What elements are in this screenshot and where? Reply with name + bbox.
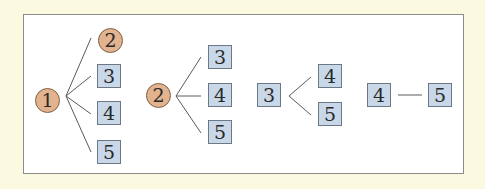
node-label: 4 bbox=[103, 104, 115, 123]
group3-root-node: 3 bbox=[257, 83, 281, 107]
node-label: 3 bbox=[214, 48, 226, 67]
group2-child-node: 3 bbox=[208, 45, 232, 69]
node-label: 3 bbox=[263, 86, 275, 105]
group2-child-node: 4 bbox=[208, 83, 232, 107]
edge-1-3 bbox=[66, 76, 91, 96]
group1-child-node: 4 bbox=[97, 101, 121, 125]
node-label: 2 bbox=[104, 31, 116, 50]
group2-child-node: 5 bbox=[208, 120, 232, 144]
group1-child-node: 3 bbox=[97, 64, 121, 88]
group2-root-node: 2 bbox=[146, 83, 171, 108]
node-label: 1 bbox=[41, 91, 53, 110]
group4-child-node: 5 bbox=[428, 83, 452, 107]
edge-2-5 bbox=[176, 96, 201, 133]
edge-1-2 bbox=[66, 38, 91, 96]
node-label: 4 bbox=[214, 86, 226, 105]
edge-3-4 bbox=[289, 77, 311, 96]
edge-3-5 bbox=[289, 96, 311, 115]
node-label: 5 bbox=[214, 123, 226, 142]
node-label: 4 bbox=[324, 67, 336, 86]
node-label: 5 bbox=[434, 86, 446, 105]
node-label: 2 bbox=[152, 86, 164, 105]
node-label: 5 bbox=[324, 105, 336, 124]
node-label: 5 bbox=[103, 143, 115, 162]
connector-lines bbox=[0, 0, 485, 189]
group3-child-node: 4 bbox=[318, 64, 342, 88]
edge-2-3 bbox=[176, 57, 201, 96]
group1-root-node: 1 bbox=[35, 88, 60, 113]
group4-root-node: 4 bbox=[367, 83, 391, 107]
node-label: 3 bbox=[103, 67, 115, 86]
node-label: 4 bbox=[373, 86, 385, 105]
group3-child-node: 5 bbox=[318, 102, 342, 126]
group1-child-node: 2 bbox=[98, 28, 123, 53]
group1-child-node: 5 bbox=[97, 140, 121, 164]
